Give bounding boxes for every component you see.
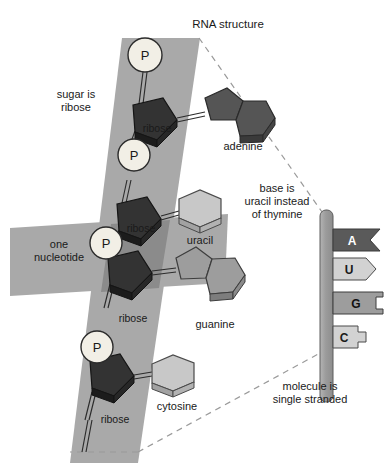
base-cytosine: [152, 355, 194, 397]
rna-structure-figure: P P: [0, 0, 388, 463]
phosphate-3: P: [90, 227, 122, 259]
phosphate-4: P: [81, 331, 113, 363]
strand-backbone-bar: [320, 210, 333, 402]
strand-tab-letter-u: U: [345, 263, 354, 277]
strand-tab-adenine: A: [333, 229, 380, 251]
phosphate-letter-2: P: [130, 148, 139, 163]
phosphate-2: P: [118, 139, 150, 171]
single-strand-schematic: A U G C: [320, 210, 383, 402]
strand-tab-cytosine: C: [333, 326, 366, 348]
strand-tab-letter-c: C: [340, 331, 349, 345]
strand-tab-letter-a: A: [348, 234, 357, 248]
strand-tab-uracil: U: [333, 258, 376, 280]
rna-structure-illustration: P P: [0, 0, 388, 463]
phosphate-letter-3: P: [102, 236, 111, 251]
strand-tab-letter-g: G: [351, 297, 360, 311]
strand-tab-guanine: G: [333, 292, 383, 314]
phosphate-1: P: [128, 38, 162, 72]
phosphate-letter-4: P: [93, 340, 102, 355]
base-uracil: [179, 190, 221, 233]
phosphate-letter-1: P: [141, 48, 150, 63]
